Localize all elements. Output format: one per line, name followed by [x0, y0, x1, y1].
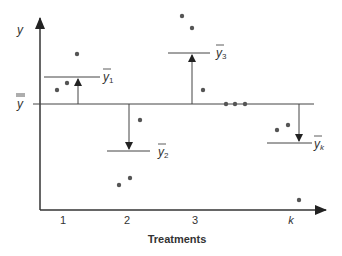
x-axis-label: Treatments	[148, 233, 207, 245]
x-tick-k: k	[288, 214, 294, 226]
data-point	[138, 118, 142, 122]
x-tick-2: 2	[124, 214, 130, 226]
data-point	[201, 88, 205, 92]
mean-label-3: y3	[215, 45, 227, 61]
ellipsis-dots	[224, 102, 247, 106]
data-point	[128, 176, 132, 180]
mean-label-k: yk	[313, 136, 325, 152]
svg-text:y1: y1	[102, 70, 114, 85]
mean-label-1: y1	[102, 69, 114, 85]
data-point	[55, 88, 59, 92]
svg-text:yk: yk	[313, 137, 325, 152]
treatment-1-group: y1	[44, 52, 114, 104]
svg-text:y: y	[16, 97, 24, 111]
data-point	[286, 123, 290, 127]
data-point	[275, 128, 279, 132]
x-tick-3: 3	[192, 214, 198, 226]
svg-text:y2: y2	[157, 145, 169, 160]
data-point	[65, 81, 69, 85]
data-point	[117, 183, 121, 187]
y-axis-label: y	[16, 23, 24, 37]
data-point	[75, 52, 79, 56]
treatment-3-group: y3	[168, 14, 227, 104]
treatment-k-group: yk	[267, 104, 325, 202]
treatment-2-group: y2	[107, 104, 169, 187]
svg-text:y3: y3	[215, 46, 227, 61]
anova-treatment-means-diagram: y y y1 y2	[0, 0, 342, 256]
x-tick-1: 1	[60, 214, 66, 226]
data-point	[297, 198, 301, 202]
mean-label-2: y2	[157, 144, 169, 160]
data-point	[180, 14, 184, 18]
grand-mean-label: y	[16, 94, 25, 111]
data-point	[190, 26, 194, 30]
